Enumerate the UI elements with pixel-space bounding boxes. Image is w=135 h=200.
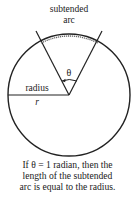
caption-line-3: arc is equal to the radius. — [0, 181, 135, 192]
caption: If θ = 1 radian, then the length of the … — [0, 159, 135, 193]
angle-ray-right — [69, 31, 102, 95]
subtended-label-2: arc — [63, 15, 75, 25]
caption-line-1: If θ = 1 radian, then the — [0, 159, 135, 170]
caption-line-2: length of the subtended — [0, 170, 135, 181]
subtended-label-1: subtended — [50, 4, 89, 14]
r-label: r — [35, 97, 39, 107]
theta-label: θ — [67, 67, 72, 78]
radius-label: radius — [25, 83, 49, 93]
